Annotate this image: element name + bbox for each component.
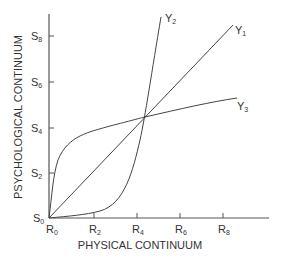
curve-y1 <box>49 25 233 218</box>
curve-y3 <box>49 98 237 218</box>
curve-label-y2: Y2 <box>165 12 176 25</box>
y-label-s4: S4 <box>31 122 42 135</box>
x-label-r0: R0 <box>46 223 58 236</box>
x-label-r8: R8 <box>218 223 230 236</box>
curve-label-y1: Y1 <box>235 24 246 37</box>
y-label-s6: S6 <box>31 76 42 89</box>
y-axis-title: PSYCHOLOGICAL CONTINUUM <box>12 35 24 199</box>
x-label-r2: R2 <box>89 223 101 236</box>
y-label-s0: S0 <box>33 212 44 225</box>
y-label-s8: S8 <box>31 30 42 43</box>
x-label-r4: R4 <box>132 223 144 236</box>
x-label-r6: R6 <box>175 223 187 236</box>
x-axis-title: PHYSICAL CONTINUUM <box>78 239 202 251</box>
psychophysics-chart: S8 S6 S4 S2 S0 R0 R2 R4 R6 R8 Y2 Y1 Y3 P… <box>0 0 281 261</box>
curve-label-y3: Y3 <box>237 100 248 113</box>
y-label-s2: S2 <box>31 167 42 180</box>
